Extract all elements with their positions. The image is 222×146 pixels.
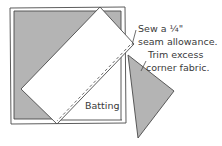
trim-label-line1: Trim excess (147, 49, 203, 60)
batting-label: Batting (85, 100, 119, 111)
trim-label-line2: corner fabric. (146, 62, 210, 73)
sew-label-line1: Sew a ¼" (138, 23, 183, 34)
sew-pointer-line (132, 30, 136, 45)
quilting-diagram: Sew a ¼" seam allowance. Trim excess cor… (0, 0, 222, 146)
sew-label-line2: seam allowance. (138, 36, 218, 47)
